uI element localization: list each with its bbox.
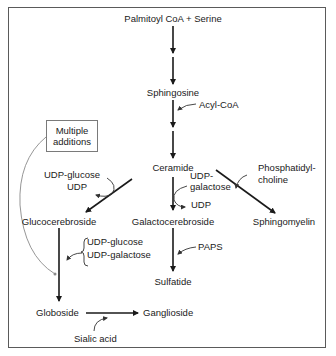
cofactor-sialic-acid: Sialic acid [74, 333, 117, 344]
callout-line2: additions [47, 136, 97, 147]
node-ceramide: Ceramide [152, 162, 193, 173]
cofactor-udp-galactose-3: UDP-galactose [87, 249, 151, 260]
sialic-acid-curve [94, 318, 107, 331]
node-sphingomyelin: Sphingomyelin [253, 216, 315, 227]
cofactor-udp-2: UDP [191, 199, 211, 210]
paps-curve [178, 247, 196, 254]
node-galactocerebroside: Galactocerebroside [132, 216, 214, 227]
cofactor-udp-glucose-2: UDP-glucose [87, 236, 143, 247]
cofactor-acyl-coa: Acyl-CoA [199, 99, 239, 110]
cofactor-choline: choline [258, 174, 288, 185]
node-palmitoyl-coa-serine: Palmitoyl CoA + Serine [124, 13, 221, 24]
node-ganglioside: Ganglioside [143, 307, 193, 318]
cofactor-udp: UDP [67, 181, 87, 192]
udp-galactose-curve [174, 186, 187, 207]
acyl-coa-curve [178, 104, 196, 110]
cofactor-phosphatidyl: Phosphatidyl- [258, 162, 316, 173]
node-glucocerebroside: Glucocerebroside [22, 216, 96, 227]
cofactor-udp-glucose: UDP-glucose [44, 169, 100, 180]
cofactor-paps: PAPS [198, 241, 223, 252]
node-sulfatide: Sulfatide [155, 276, 192, 287]
node-sphingosine: Sphingosine [147, 87, 199, 98]
cofactor-udp-galactose-2: galactose [190, 181, 231, 192]
multiple-additions-box: Multiple additions [46, 120, 98, 152]
udp-sugar-curve [67, 253, 82, 260]
cofactor-udp-galactose-1: UDP- [190, 170, 213, 181]
node-globoside: Globoside [36, 307, 79, 318]
multiple-additions-curve [20, 137, 55, 274]
callout-line1: Multiple [47, 125, 97, 136]
